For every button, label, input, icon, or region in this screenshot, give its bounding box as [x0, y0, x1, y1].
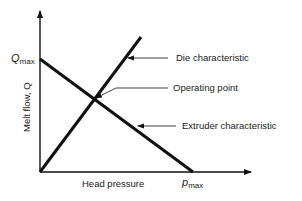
extruder-die-diagram: Die characteristic Operating point Extru… [0, 0, 302, 201]
die-characteristic-label: Die characteristic [176, 52, 249, 63]
y-axis-label: Melt flow, Q [21, 82, 32, 132]
p-max-label: pmax [181, 176, 203, 190]
extruder-characteristic-line [40, 59, 193, 172]
extruder-characteristic-label: Extruder characteristic [182, 120, 277, 131]
die-characteristic-line [40, 37, 141, 172]
operating-point-label: Operating point [173, 82, 238, 93]
x-axis-label: Head pressure [82, 178, 144, 189]
q-max-label: Qmax [11, 52, 35, 66]
operating-leader [96, 88, 168, 98]
